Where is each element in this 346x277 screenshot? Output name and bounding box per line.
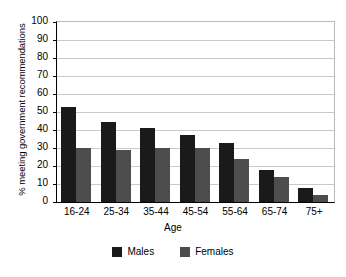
bar-females-25-34 [116,150,131,202]
legend-swatch-females [180,247,190,257]
y-axis-tick-label: 50 [20,106,48,116]
y-axis-tick-label: 40 [20,124,48,134]
y-axis-tick-label: 80 [20,52,48,62]
bar-females-16-24 [76,148,91,202]
bar-males-35-44 [140,128,155,202]
y-axis-tick-label: 20 [20,160,48,170]
bar-females-65-74 [274,177,289,202]
legend: MalesFemales [0,246,346,257]
bar-group [255,22,295,202]
bar-group [136,22,176,202]
y-axis-tick-label: 100 [20,16,48,26]
bar-females-35-44 [155,148,170,202]
y-axis-tick-label: 10 [20,178,48,188]
x-axis-tick-label: 75+ [284,206,344,217]
bar-females-75+ [313,195,328,202]
bar-females-45-54 [195,148,210,202]
bar-males-55-64 [219,143,234,202]
y-axis-tick-label: 70 [20,70,48,80]
bar-males-25-34 [101,122,116,202]
bar-group [57,22,97,202]
bar-group [176,22,216,202]
bar-females-55-64 [234,159,249,202]
bar-males-75+ [298,188,313,202]
bar-group [97,22,137,202]
x-axis-title: Age [0,222,346,233]
y-axis-tick-mark [53,202,57,203]
bar-group [294,22,334,202]
legend-item-females: Females [180,246,233,257]
legend-label: Males [127,246,154,257]
y-axis-tick-label: 0 [20,196,48,206]
bars-layer [57,22,334,202]
y-axis-tick-label: 90 [20,34,48,44]
y-axis-tick-label: 30 [20,142,48,152]
bar-males-65-74 [259,170,274,202]
legend-item-males: Males [112,246,154,257]
y-axis-tick-label: 60 [20,88,48,98]
bar-males-45-54 [180,135,195,203]
legend-swatch-males [112,247,122,257]
bar-chart: % meeting government recommendations 010… [0,0,346,277]
legend-label: Females [195,246,233,257]
bar-males-16-24 [61,107,76,202]
bar-group [215,22,255,202]
